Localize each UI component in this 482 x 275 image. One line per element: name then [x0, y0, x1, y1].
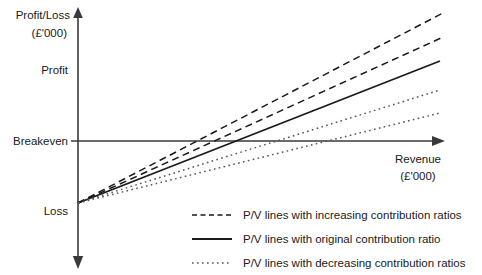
x-axis-title: Revenue — [395, 153, 441, 165]
profit-region-label: Profit — [41, 64, 69, 76]
pv-line-decreasing-1 — [78, 90, 440, 203]
x-axis-units: (£'000) — [400, 170, 436, 182]
pv-line-increasing-2 — [78, 13, 443, 203]
legend-label-original: P/V lines with original contribution rat… — [243, 233, 441, 245]
legend-label-decreasing: P/V lines with decreasing contribution r… — [243, 257, 466, 269]
axes-group — [71, 7, 445, 269]
pv-chart-canvas: Profit/Loss (£'000) Revenue (£'000) Prof… — [0, 0, 482, 275]
x-axis-right-arrow-icon — [432, 136, 445, 146]
breakeven-axis-label: Breakeven — [13, 135, 68, 147]
y-axis-units: (£'000) — [32, 27, 68, 39]
legend-label-increasing: P/V lines with increasing contribution r… — [243, 209, 462, 221]
pv-lines-group — [78, 13, 443, 203]
pv-line-decreasing-2 — [78, 113, 440, 203]
loss-region-label: Loss — [44, 205, 69, 217]
y-axis-title: Profit/Loss — [16, 9, 71, 21]
y-axis-down-arrow-icon — [73, 256, 83, 269]
legend-item-original: P/V lines with original contribution rat… — [192, 233, 441, 245]
pv-line-increasing-1 — [78, 38, 441, 203]
chart-figure: Profit/Loss (£'000) Revenue (£'000) Prof… — [0, 0, 482, 275]
chart-legend: P/V lines with increasing contribution r… — [192, 209, 466, 269]
pv-line-original — [78, 61, 440, 203]
legend-item-increasing: P/V lines with increasing contribution r… — [192, 209, 462, 221]
y-axis-up-arrow-icon — [73, 7, 83, 18]
legend-item-decreasing: P/V lines with decreasing contribution r… — [192, 257, 466, 269]
